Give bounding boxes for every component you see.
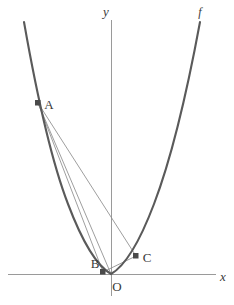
- point-marker-a: [35, 100, 41, 106]
- point-marker-c: [133, 253, 139, 259]
- segment-b-to-c: [103, 256, 136, 272]
- point-label-b: B: [91, 256, 100, 271]
- segment-a-to-b: [38, 103, 103, 272]
- segment-a-to-o: [38, 103, 111, 274]
- point-label-a: A: [44, 97, 54, 112]
- point-marker-b: [100, 269, 106, 275]
- curve-label-f: f: [198, 5, 203, 19]
- x-axis-label: x: [219, 269, 226, 284]
- point-label-c: C: [143, 250, 152, 265]
- y-axis-label: y: [101, 4, 109, 19]
- parabola-figure: y x f O A B C: [0, 0, 234, 305]
- figure-canvas: y x f O A B C: [0, 0, 234, 305]
- segment-a-to-c: [38, 103, 136, 256]
- origin-label: O: [112, 279, 121, 294]
